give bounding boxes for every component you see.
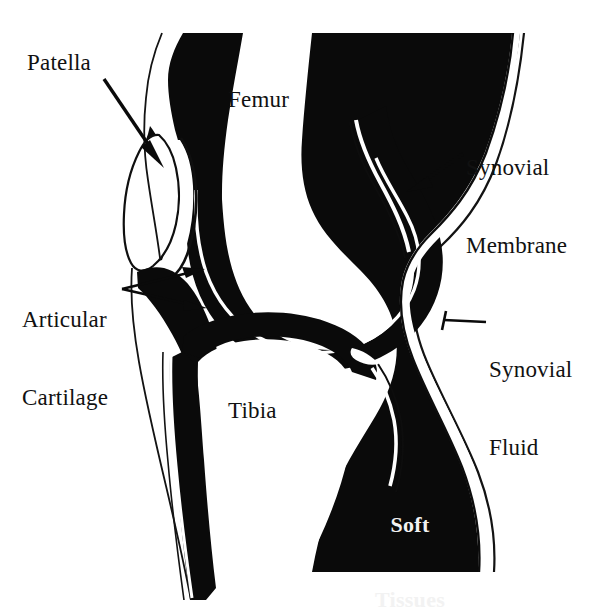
synovial-fluid-leader-tick (442, 311, 486, 330)
label-articular-cartilage-line1: Articular (22, 307, 108, 333)
label-soft-tissues-line2: Tissues (355, 587, 465, 611)
label-synovial-fluid-line2: Fluid (489, 435, 572, 461)
label-synovial-fluid: Synovial Fluid (489, 305, 572, 513)
label-articular-cartilage: Articular Cartilage (22, 255, 108, 463)
label-synovial-membrane-line1: Synovial (466, 155, 567, 181)
label-synovial-membrane-line2: Membrane (466, 233, 567, 259)
label-articular-cartilage-line2: Cartilage (22, 385, 108, 411)
label-soft-tissues: Soft Tissues (355, 462, 465, 611)
label-tibia: Tibia (228, 398, 277, 424)
label-femur: Femur (228, 87, 289, 113)
patella-leader-arrow (104, 79, 164, 168)
label-synovial-membrane: Synovial Membrane (466, 103, 567, 311)
label-patella: Patella (27, 50, 91, 76)
label-synovial-fluid-line1: Synovial (489, 357, 572, 383)
label-soft-tissues-line1: Soft (355, 512, 465, 537)
